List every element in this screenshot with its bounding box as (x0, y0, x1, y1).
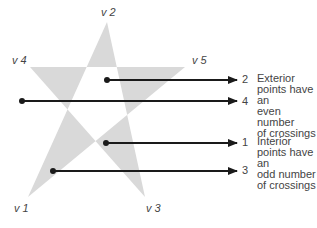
interior-note-line: points have an (257, 147, 317, 169)
crossing-count-3: 3 (242, 164, 248, 176)
crossing-count-2: 2 (242, 73, 248, 85)
vertex-label-v2: v 2 (101, 6, 116, 18)
ray-3-crossings (50, 168, 237, 174)
vertex-label-v4: v 4 (12, 54, 27, 66)
exterior-note-line: points have an (257, 84, 317, 106)
crossing-count-1: 1 (242, 136, 248, 148)
vertex-label-v3: v 3 (146, 202, 161, 214)
interior-note-line: of crossings (257, 180, 317, 191)
crossing-count-4: 4 (242, 95, 248, 107)
exterior-note-line: even number (257, 106, 317, 128)
vertex-label-v1: v 1 (14, 202, 29, 214)
vertex-label-v5: v 5 (192, 54, 207, 66)
exterior-note: Exterior points have an even number of c… (257, 73, 317, 139)
interior-note: Interior points have an odd number of cr… (257, 136, 317, 191)
